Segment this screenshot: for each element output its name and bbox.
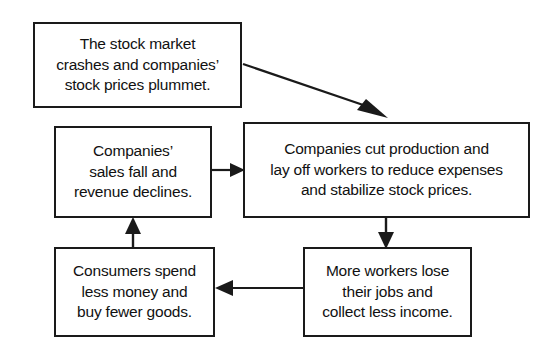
flow-node-cut-production-label: Companies cut production and lay off wor… <box>270 139 502 201</box>
flow-node-workers-lose: More workers lose their jobs and collect… <box>303 247 472 337</box>
arrow-stock-crash-to-cut-production <box>243 64 388 118</box>
flow-node-sales-fall: Companies’ sales fall and revenue declin… <box>54 126 212 218</box>
arrow-workers-lose-to-consumers <box>215 280 303 296</box>
flowchart-canvas: The stock market crashes and companies’ … <box>0 0 556 360</box>
arrow-consumers-to-sales-fall <box>125 217 141 249</box>
flow-node-workers-lose-label: More workers lose their jobs and collect… <box>322 261 452 323</box>
flow-node-sales-fall-label: Companies’ sales fall and revenue declin… <box>74 141 192 203</box>
flow-node-stock-crash-label: The stock market crashes and companies’ … <box>56 34 219 96</box>
flow-node-stock-crash: The stock market crashes and companies’ … <box>33 22 242 108</box>
flow-node-consumers-label: Consumers spend less money and buy fewer… <box>73 261 196 323</box>
flow-node-cut-production: Companies cut production and lay off wor… <box>243 122 530 218</box>
flow-node-consumers: Consumers spend less money and buy fewer… <box>54 247 215 337</box>
arrow-cut-production-to-workers-lose <box>378 216 394 249</box>
arrow-sales-fall-to-cut-production <box>212 163 245 177</box>
